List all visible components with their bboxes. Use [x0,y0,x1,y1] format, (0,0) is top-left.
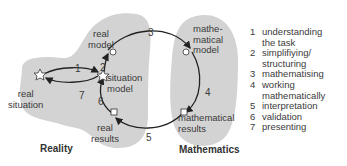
edge-number-2: 2 [100,62,106,73]
reality-title: Reality [40,143,73,154]
legend-item: 4working mathematically [250,80,325,101]
edge-number-1: 1 [75,63,81,74]
mathematical-results-label: mathematical results [178,113,235,134]
modelling-cycle-diagram: real situation situation model real mode… [0,0,347,166]
edge-number-6: 6 [98,96,104,107]
legend: 1understanding the task 2simplifiying/ s… [250,27,325,133]
situation-model-label: situation model [107,73,142,94]
real-model-label: real model [88,29,114,50]
real-results-label: real results [91,123,119,144]
mathematical-model-label: mathe- matical model [193,24,223,56]
edge-number-5: 5 [146,132,152,143]
real-situation-label: real situation [8,89,43,110]
legend-item: 2simplifiying/ structuring [250,48,325,69]
mathematics-title: Mathematics [179,144,240,155]
legend-item: 7presenting [250,122,325,133]
real-results-node-icon [111,109,117,115]
mathematical-model-node-icon [183,49,189,55]
edge-number-4: 4 [205,87,211,98]
legend-item: 1understanding the task [250,27,325,48]
edge-number-3: 3 [148,27,154,38]
edge-number-7: 7 [79,90,85,101]
